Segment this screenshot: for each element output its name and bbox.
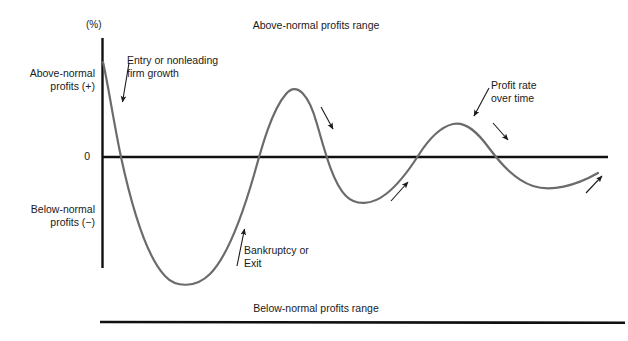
- arrow-profit-rate-label: [474, 88, 489, 116]
- profit-rate-diagram: [0, 0, 628, 341]
- arrow-decline-third-cycle: [493, 123, 508, 140]
- annotation-entry-or-nonleading-firm-growth: Entry or nonleading firm growth: [127, 54, 218, 80]
- zero-tick-label: 0: [72, 150, 90, 163]
- below-normal-profits-axis-label: Below-normal profits (−): [10, 203, 95, 229]
- bottom-rule: [100, 322, 625, 323]
- arrow-recovery-second-cycle: [391, 182, 408, 201]
- above-normal-profits-range-caption: Above-normal profits range: [206, 19, 426, 32]
- below-normal-profits-range-caption: Below-normal profits range: [196, 302, 436, 315]
- y-axis-unit-label: (%): [86, 18, 102, 31]
- above-normal-profits-axis-label: Above-normal profits (+): [10, 67, 95, 93]
- figure-container: (%) 0 Above-normal profits (+) Below-nor…: [0, 0, 628, 341]
- annotation-bankruptcy-or-exit: Bankruptcy or Exit: [244, 244, 309, 270]
- arrow-decline-second-cycle: [321, 107, 333, 129]
- annotation-profit-rate-over-time: Profit rate over time: [491, 79, 537, 105]
